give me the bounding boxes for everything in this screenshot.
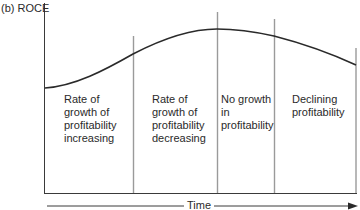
roce-curve <box>45 29 356 88</box>
stage-label-2: Rate of growth of profitability decreasi… <box>152 93 206 145</box>
stage-label-1: Rate of growth of profitability increasi… <box>64 93 117 145</box>
stage-label-3: No growth in profitability <box>221 93 274 132</box>
x-axis-label: Time <box>184 199 214 210</box>
time-arrow-head <box>348 203 358 210</box>
y-axis-label: (b) ROCE <box>1 2 49 14</box>
stage-label-4: Declining profitability <box>292 93 345 119</box>
